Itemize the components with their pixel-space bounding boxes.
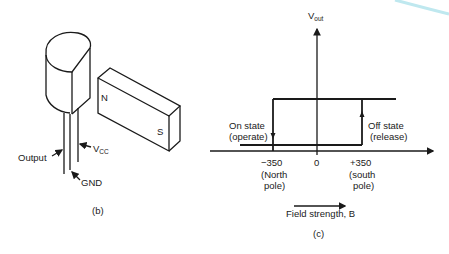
gnd-label: GND — [81, 177, 102, 188]
south-pole-note-1: (south — [349, 169, 375, 180]
tick-label-neg350: −350 — [261, 157, 282, 168]
off-state-label: Off state — [368, 120, 404, 131]
diagram-canvas: N S Output VCC GND (b) Vout On state (op… — [0, 0, 449, 254]
magnet-south-label: S — [157, 126, 163, 137]
figure-b-caption: (b) — [92, 205, 104, 216]
bar-magnet — [98, 68, 180, 151]
gnd-pointer-arrow — [72, 172, 80, 180]
vcc-pointer-arrow — [80, 144, 91, 147]
output-pointer-arrow — [52, 150, 62, 156]
decorative-curve — [395, 0, 449, 14]
tick-label-0: 0 — [314, 157, 319, 168]
on-state-sub-label: (operate) — [229, 131, 268, 142]
tick-label-pos350: +350 — [350, 157, 371, 168]
on-state-label: On state — [229, 120, 265, 131]
south-pole-note-2: pole) — [353, 180, 374, 191]
vcc-label: VCC — [93, 143, 109, 155]
release-arrow — [360, 111, 365, 117]
off-state-sub-label: (release) — [370, 131, 408, 142]
x-axis-caption: Field strength, B — [286, 208, 355, 219]
y-axis-label: Vout — [308, 10, 324, 22]
magnet-north-label: N — [101, 92, 108, 103]
operate-arrow — [271, 133, 276, 139]
hall-sensor — [46, 32, 91, 174]
north-pole-note-2: pole) — [264, 180, 285, 191]
figure-c-caption: (c) — [313, 228, 324, 239]
output-label: Output — [18, 152, 47, 163]
north-pole-note-1: (North — [261, 169, 287, 180]
